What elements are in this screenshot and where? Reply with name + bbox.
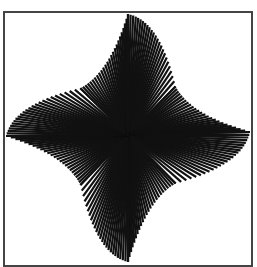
line-fans xyxy=(6,14,250,262)
op-art-pinwheel xyxy=(0,0,257,267)
